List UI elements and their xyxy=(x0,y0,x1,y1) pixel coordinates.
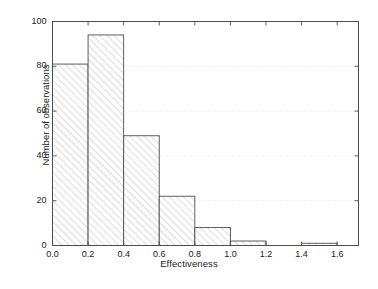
x-tick-label: 0.0 xyxy=(33,249,73,259)
x-tick-label: 1.0 xyxy=(210,249,250,259)
y-tick-label: 100 xyxy=(7,16,47,26)
histogram-figure: 0.00.20.40.60.81.01.21.41.6020406080100 … xyxy=(0,0,378,289)
x-axis-label: Effectiveness xyxy=(0,258,378,269)
x-tick-label: 0.4 xyxy=(104,249,144,259)
x-tick-label: 0.2 xyxy=(68,249,108,259)
histogram-plot-area xyxy=(0,0,378,289)
x-tick-label: 0.6 xyxy=(139,249,179,259)
y-tick-label: 40 xyxy=(7,150,47,160)
x-tick-label: 1.6 xyxy=(317,249,357,259)
histogram-bars xyxy=(53,35,338,246)
y-tick-label: 0 xyxy=(7,240,47,250)
x-tick-label: 1.2 xyxy=(246,249,286,259)
y-tick-label: 20 xyxy=(7,195,47,205)
y-tick-label: 80 xyxy=(7,60,47,70)
x-tick-label: 1.4 xyxy=(282,249,322,259)
y-tick-label: 60 xyxy=(7,105,47,115)
x-tick-label: 0.8 xyxy=(175,249,215,259)
